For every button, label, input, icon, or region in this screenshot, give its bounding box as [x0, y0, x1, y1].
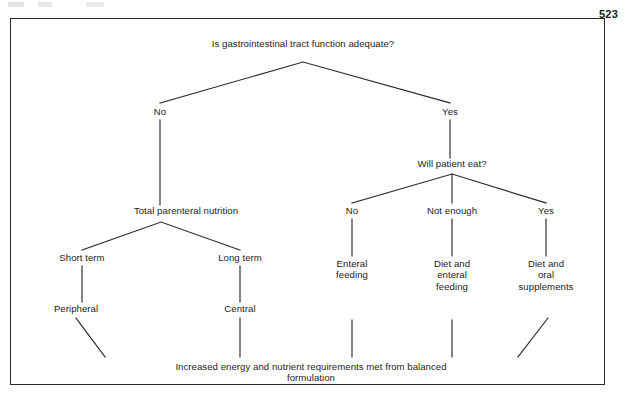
node-total-parenteral-nutrition: Total parenteral nutrition: [134, 205, 238, 216]
node-central: Central: [224, 303, 255, 314]
node-eat-no: No: [346, 205, 358, 216]
node-edge-label-yes: Yes: [442, 106, 458, 117]
node-eat-yes: Yes: [538, 205, 554, 216]
node-enteral-feeding: Enteral feeding: [336, 258, 368, 281]
node-edge-label-no: No: [154, 106, 166, 117]
node-short-term: Short term: [59, 252, 104, 263]
node-will-patient-eat: Will patient eat?: [417, 158, 486, 169]
scan-artifact: [8, 2, 158, 7]
node-diet-and-oral-supplements: Diet and oral supplements: [519, 258, 574, 292]
node-long-term: Long term: [218, 252, 262, 263]
flowchart-page: 523: [0, 0, 626, 395]
node-diet-and-enteral-feeding: Diet and enteral feeding: [434, 258, 470, 292]
node-root-question: Is gastrointestinal tract function adequ…: [212, 38, 394, 49]
node-outcome-statement: Increased energy and nutrient requiremen…: [154, 361, 469, 384]
node-eat-not-enough: Not enough: [427, 205, 477, 216]
diagram-frame-border: [10, 18, 605, 385]
node-peripheral: Peripheral: [54, 303, 98, 314]
